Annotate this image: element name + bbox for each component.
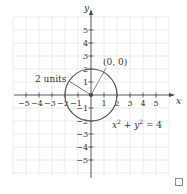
y-tick-label: 5: [83, 26, 88, 35]
y-tick-label: −5: [76, 156, 88, 165]
x-tick-label: −3: [44, 99, 56, 108]
x-tick-label: −5: [18, 99, 30, 108]
square-outline-icon[interactable]: [175, 178, 183, 186]
y-tick-label: −1: [76, 104, 88, 113]
x-tick-label: −4: [31, 99, 43, 108]
equation-plus: +: [121, 120, 134, 130]
equation-label: x2 + y2 = 4: [112, 118, 162, 130]
y-tick-label: 4: [83, 39, 88, 48]
y-axis-label: y: [83, 3, 90, 13]
graph-canvas: y x −5 −4 −3 −2 −1 1 2 3 4 5 5 4 3 2 1 −…: [0, 0, 187, 194]
y-tick-label: −3: [76, 130, 88, 139]
equation-rhs: = 4: [143, 120, 162, 130]
radius-label: 2 units: [35, 74, 67, 84]
y-tick-label: −4: [76, 143, 88, 152]
center-label: (0, 0): [103, 57, 127, 67]
x-axis-label: x: [176, 96, 181, 106]
x-tick-label: 3: [127, 99, 132, 108]
x-tick-labels: −5 −4 −3 −2 −1 1 2 3 4 5: [18, 99, 158, 108]
x-axis-arrow-icon: [169, 93, 175, 97]
y-tick-label: 1: [83, 78, 88, 87]
x-tick-label: 4: [140, 99, 145, 108]
center-point: [89, 93, 93, 97]
x-tick-label: 1: [101, 99, 106, 108]
circle-graph-figure: y x −5 −4 −3 −2 −1 1 2 3 4 5 5 4 3 2 1 −…: [0, 0, 187, 194]
y-tick-label: 3: [83, 52, 88, 61]
y-tick-label: −2: [76, 117, 88, 126]
x-tick-label: 5: [153, 99, 158, 108]
y-axis-arrow-icon: [89, 9, 93, 15]
